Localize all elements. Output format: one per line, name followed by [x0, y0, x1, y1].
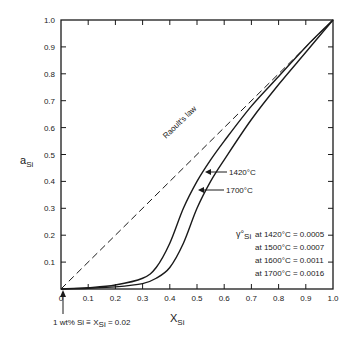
- x-tick-label: 0.2: [110, 294, 122, 303]
- svg-text:at 1700°C = 0.0016: at 1700°C = 0.0016: [255, 269, 325, 278]
- y-tick-label: 0.1: [44, 258, 56, 267]
- y-axis-label: aSi: [20, 154, 33, 169]
- label-1420: 1420°C: [205, 168, 256, 177]
- arrowhead-icon: [198, 187, 204, 193]
- x-tick-label: 0.9: [300, 294, 312, 303]
- y-tick-label: 0.4: [44, 177, 56, 186]
- svg-text:at 1600°C = 0.0011: at 1600°C = 0.0011: [255, 256, 324, 265]
- y-tick-label: 0.8: [44, 70, 56, 79]
- arrowhead-icon: [205, 169, 211, 175]
- y-tick-label: 0.2: [44, 231, 56, 240]
- x-axis-label: XSi: [170, 312, 185, 327]
- x-tick-label: 0.7: [246, 294, 258, 303]
- y-tick-label: 0.9: [44, 43, 56, 52]
- activity-chart: 00.10.20.30.40.50.60.70.80.91.00.10.20.3…: [0, 0, 358, 340]
- svg-text:γ°Si: γ°Si: [236, 229, 251, 241]
- y-tick-label: 0.7: [44, 97, 56, 106]
- x-tick-label: 0.5: [191, 294, 203, 303]
- svg-text:1 wt% Si ≡ XSi = 0.02: 1 wt% Si ≡ XSi = 0.02: [53, 318, 131, 329]
- y-tick-label: 0.3: [44, 204, 56, 213]
- svg-text:1420°C: 1420°C: [229, 168, 256, 177]
- gamma-annotation: γ°Si at 1420°C = 0.0005 at 1500°C = 0.00…: [236, 229, 325, 278]
- raoults-law-label: Raoult's law: [161, 104, 198, 140]
- label-1700: 1700°C: [198, 186, 253, 195]
- x-tick-label: 0.3: [137, 294, 149, 303]
- x-tick-label: 0.6: [219, 294, 231, 303]
- y-tick-label: 1.0: [44, 16, 56, 25]
- y-tick-label: 0.5: [44, 151, 56, 160]
- svg-text:at 1500°C = 0.0007: at 1500°C = 0.0007: [255, 243, 325, 252]
- x-tick-label: 0.4: [164, 294, 176, 303]
- y-tick-label: 0.6: [44, 124, 56, 133]
- x-tick-label: 0.1: [83, 294, 95, 303]
- svg-text:1700°C: 1700°C: [226, 186, 253, 195]
- svg-text:at 1420°C = 0.0005: at 1420°C = 0.0005: [255, 230, 325, 239]
- x-tick-label: 0.8: [273, 294, 285, 303]
- x-tick-label: 1.0: [327, 294, 339, 303]
